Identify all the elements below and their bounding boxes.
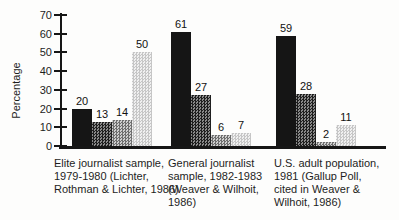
bar-chart-figure: Percentage 010203040506070 2061591327281… xyxy=(0,0,399,220)
bar-series-3-medium-gray-group-1 xyxy=(112,120,132,146)
y-tick-mark xyxy=(54,51,67,53)
y-tick-label: 40 xyxy=(28,65,52,77)
bar-value-label: 61 xyxy=(168,18,194,31)
bar-series-4-light-gray-group-2 xyxy=(231,133,251,146)
y-tick-label: 60 xyxy=(28,28,52,40)
bar-series-3-medium-gray-group-3 xyxy=(316,142,336,146)
category-label-3: U.S. adult population, 1981 (Gallup Poll… xyxy=(274,157,394,209)
y-tick-mark xyxy=(54,33,67,35)
y-tick-mark xyxy=(54,70,67,72)
y-tick-label: 70 xyxy=(28,9,52,21)
bar-series-2-dark-gray-group-1 xyxy=(92,122,112,146)
bar-value-label: 20 xyxy=(69,95,95,108)
y-axis-title: Percentage xyxy=(10,55,23,127)
y-tick-label: 0 xyxy=(28,140,52,152)
y-tick-mark xyxy=(54,108,67,110)
y-tick-mark xyxy=(54,145,67,147)
category-label-2: General journalist sample, 1982-1983 (We… xyxy=(168,157,280,209)
bar-value-label: 7 xyxy=(228,119,254,132)
y-tick-label: 20 xyxy=(28,103,52,115)
y-tick-label: 10 xyxy=(28,121,52,133)
bar-series-4-light-gray-group-3 xyxy=(336,125,356,146)
bar-series-3-medium-gray-group-2 xyxy=(211,135,231,146)
bar-value-label: 27 xyxy=(188,81,214,94)
y-tick-mark xyxy=(54,14,67,16)
y-tick-label: 30 xyxy=(28,84,52,96)
y-tick-label: 50 xyxy=(28,46,52,58)
bar-value-label: 50 xyxy=(129,38,155,51)
y-tick-mark xyxy=(54,126,67,128)
bar-value-label: 28 xyxy=(293,80,319,93)
y-tick-mark xyxy=(54,89,67,91)
bar-series-4-light-gray-group-1 xyxy=(132,52,152,146)
bar-value-label: 11 xyxy=(333,111,359,124)
bar-value-label: 59 xyxy=(273,22,299,35)
x-axis xyxy=(59,146,386,149)
